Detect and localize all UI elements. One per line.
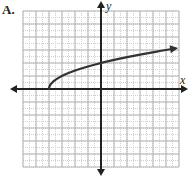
y-axis-label: y [105,0,112,13]
coordinate-plane: x y [0,0,188,176]
arrow-down-icon [97,169,105,176]
axes [10,1,188,176]
arrow-up-icon [97,1,105,8]
arrow-left-icon [10,85,17,93]
curve-arrowhead-icon [170,45,179,53]
x-axis-label: x [179,73,186,87]
